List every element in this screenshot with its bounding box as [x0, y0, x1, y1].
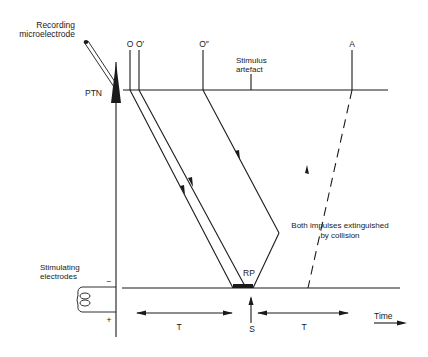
- spike-icon: [111, 62, 121, 103]
- microelectrode-icon: [84, 40, 117, 90]
- t-left-label: T: [176, 322, 181, 332]
- time-arrow-head-icon: [397, 321, 407, 326]
- stimulating-label-line2: electrodes: [40, 272, 77, 281]
- a-label: A: [349, 39, 355, 49]
- stimulus-arrow-head-icon: [249, 296, 254, 305]
- o-prime-impulse-path: [139, 90, 246, 288]
- dashed-arrowhead-icon: [305, 165, 309, 174]
- o-prime-label: O′: [136, 39, 145, 49]
- ptn-label: PTN: [85, 88, 102, 98]
- o-double-prime-arrowhead-icon: [235, 150, 240, 160]
- o-label: O: [127, 39, 134, 49]
- collision-label-line2: by collision: [320, 231, 359, 240]
- s-label: S: [249, 324, 255, 334]
- stimulating-electrodes-icon: [77, 287, 116, 312]
- stimulus-label-line2: artefact: [236, 65, 263, 74]
- collision-test-diagram: Recording microelectrode PTN O O′ O″ A S…: [0, 0, 428, 357]
- t-right-arrow-end-icon: [339, 311, 349, 316]
- o-double-prime-label: O″: [199, 39, 209, 49]
- antidromic-impulse-path: [253, 233, 279, 288]
- time-label: Time: [374, 311, 393, 321]
- stimulating-label-line1: Stimulating: [40, 263, 80, 272]
- t-right-label: T: [301, 322, 306, 332]
- t-left-arrow-start-icon: [136, 311, 146, 316]
- collision-label-line1: Both impulses extinguished: [291, 221, 388, 230]
- dashed-antidromic-path: [308, 90, 352, 288]
- o-double-prime-impulse-path: [203, 90, 279, 233]
- refractory-period-bar: [233, 284, 253, 288]
- plus-label: +: [107, 315, 112, 325]
- rp-label: RP: [243, 268, 255, 278]
- t-right-arrow-start-icon: [257, 311, 267, 316]
- o-impulse-path: [130, 90, 233, 288]
- t-left-arrow-end-icon: [223, 311, 233, 316]
- minus-label: −: [107, 276, 112, 286]
- stimulus-label-line1: Stimulus: [236, 56, 267, 65]
- recording-label-line2: microelectrode: [19, 29, 75, 39]
- o-arrowhead-icon: [180, 185, 185, 195]
